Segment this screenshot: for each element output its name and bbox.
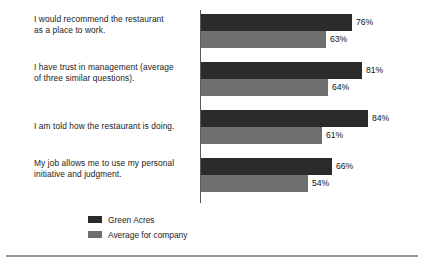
footer-divider xyxy=(6,255,418,257)
category-label-line1: I have trust in management (average xyxy=(34,62,194,73)
bar-value-label: 64% xyxy=(328,79,349,96)
category-label-line1: I am told how the restaurant is doing. xyxy=(34,121,194,132)
bar-value-label: 54% xyxy=(308,175,329,192)
legend-label: Average for company xyxy=(108,230,187,240)
category-label-line2: initiative and judgment. xyxy=(34,169,194,180)
chart-legend: Green Acres Average for company xyxy=(88,212,288,242)
bar-value-label: 61% xyxy=(322,127,343,144)
bar-average-for-company xyxy=(201,175,308,192)
category-label-line1: I would recommend the restaurant xyxy=(34,14,194,25)
category-label: I have trust in management (average of t… xyxy=(34,62,194,85)
grouped-bar-chart: I would recommend the restaurant as a pl… xyxy=(0,0,424,275)
bar-green-acres xyxy=(201,62,362,79)
category-label: I am told how the restaurant is doing. xyxy=(34,121,194,132)
legend-label: Green Acres xyxy=(108,215,155,225)
bar-average-for-company xyxy=(201,31,326,48)
bar-value-label: 66% xyxy=(332,158,353,175)
bar-green-acres xyxy=(201,14,352,31)
category-label: My job allows me to use my personal init… xyxy=(34,158,194,181)
legend-item-average-for-company: Average for company xyxy=(88,227,288,242)
bar-average-for-company xyxy=(201,127,322,144)
bar-average-for-company xyxy=(201,79,328,96)
bar-value-label: 81% xyxy=(362,62,383,79)
plot-area: I would recommend the restaurant as a pl… xyxy=(0,0,424,205)
category-label: I would recommend the restaurant as a pl… xyxy=(34,14,194,37)
legend-item-green-acres: Green Acres xyxy=(88,212,288,227)
bar-green-acres xyxy=(201,158,332,175)
category-label-line1: My job allows me to use my personal xyxy=(34,158,194,169)
bar-value-label: 76% xyxy=(352,14,373,31)
category-label-line2: of three similar questions). xyxy=(34,73,194,84)
bar-value-label: 63% xyxy=(326,31,347,48)
category-label-line2: as a place to work. xyxy=(34,25,194,36)
legend-swatch-icon xyxy=(88,231,102,238)
bar-green-acres xyxy=(201,110,368,127)
legend-swatch-icon xyxy=(88,216,102,223)
bar-value-label: 84% xyxy=(368,110,389,127)
